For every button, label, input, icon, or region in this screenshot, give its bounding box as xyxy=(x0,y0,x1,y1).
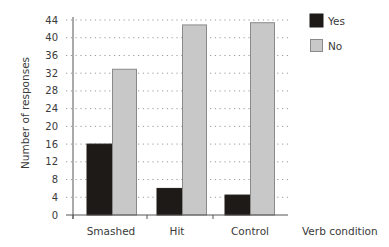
y-tick-label: 8 xyxy=(52,174,58,185)
y-tick-label: 4 xyxy=(52,192,58,203)
y-tick-label: 36 xyxy=(45,50,58,61)
y-tick-label: 44 xyxy=(45,15,58,26)
bars xyxy=(87,23,275,215)
x-category-label: Control xyxy=(231,225,269,237)
y-tick-label: 12 xyxy=(45,156,58,167)
y-tick-label: 24 xyxy=(45,103,58,114)
y-axis-title: Number of responses xyxy=(19,57,31,169)
bar-hit-yes xyxy=(157,188,182,215)
bar-control-yes xyxy=(225,195,250,215)
legend: Yes No xyxy=(310,14,345,52)
y-tick-label: 40 xyxy=(45,32,58,43)
y-tick-label: 16 xyxy=(45,139,58,150)
x-category-label: Smashed xyxy=(87,225,136,237)
bar-control-no xyxy=(251,23,275,215)
legend-label-no: No xyxy=(328,40,342,52)
bar-smashed-yes xyxy=(87,144,112,215)
y-tick-label: 32 xyxy=(45,68,58,79)
bar-hit-no xyxy=(183,25,207,215)
y-tick-label: 0 xyxy=(52,210,58,221)
bar-chart: 048121620242832364044 SmashedHitControl … xyxy=(0,0,389,247)
y-axis-ticks: 048121620242832364044 xyxy=(45,15,58,221)
bar-smashed-no xyxy=(113,69,137,215)
y-tick-label: 20 xyxy=(45,121,58,132)
x-axis-title: Verb condition xyxy=(302,225,378,237)
legend-swatch-no xyxy=(311,40,323,52)
y-tick-label: 28 xyxy=(45,85,58,96)
legend-swatch-yes xyxy=(310,14,323,27)
x-axis-labels: SmashedHitControl xyxy=(87,225,269,237)
x-axis-ticks xyxy=(73,215,213,219)
x-category-label: Hit xyxy=(170,225,185,237)
legend-label-yes: Yes xyxy=(327,15,345,27)
